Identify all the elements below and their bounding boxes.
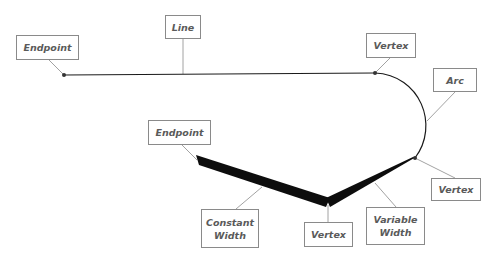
label-endpoint-bottom: Endpoint [148,120,211,145]
leader-vertex-top [375,58,390,73]
leader-endpoint-top [49,60,64,75]
label-line: Line [165,15,201,39]
constant-width-segment [196,155,330,207]
label-vertex-top: Vertex [366,33,416,58]
label-arc: Arc [433,68,477,92]
leader-variable-width [375,183,396,207]
label-endpoint-top: Endpoint [16,35,79,60]
leader-lines [49,39,455,222]
polyline-line-segment [64,73,375,75]
leader-endpoint-bottom [182,145,197,160]
endpoint-top-dot [62,73,66,77]
label-vertex-bottom: Vertex [304,222,353,247]
leader-vertex-right [415,158,455,178]
leader-arc [427,92,455,121]
vertex-right-dot [413,156,417,160]
label-constant-width: Constant Width [201,209,259,248]
variable-width-segment [326,157,416,207]
label-variable-width: Variable Width [366,207,425,245]
vertex-top-dot [373,71,377,75]
leader-constant-width [236,187,262,209]
label-vertex-right: Vertex [431,178,481,201]
polyline-arc-segment [375,73,426,158]
